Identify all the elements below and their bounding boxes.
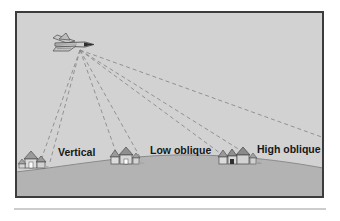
figure-container: Aerial photography camera orientation di… — [0, 0, 340, 221]
house-door — [124, 159, 128, 164]
house-door — [29, 162, 33, 168]
house-body — [219, 157, 227, 164]
house-body — [111, 157, 119, 164]
house-body — [37, 162, 45, 168]
label-high-oblique: High oblique — [257, 143, 321, 155]
house-body — [237, 155, 249, 164]
aerial-photography-diagram: Aerial photography camera orientation di… — [0, 0, 340, 221]
house-body — [19, 164, 25, 168]
label-vertical: Vertical — [58, 146, 95, 158]
house-body — [133, 158, 139, 164]
house-body — [250, 158, 256, 164]
house-door — [230, 159, 234, 164]
label-low-oblique: Low oblique — [150, 144, 211, 156]
